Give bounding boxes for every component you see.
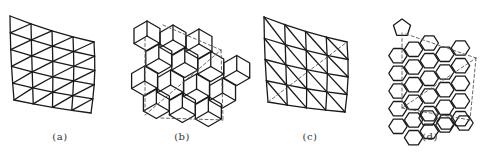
caption-d: (d) <box>410 131 450 142</box>
caption-c: (c) <box>290 131 330 142</box>
caption-a: (a) <box>40 131 80 142</box>
caption-b: (b) <box>162 131 202 142</box>
